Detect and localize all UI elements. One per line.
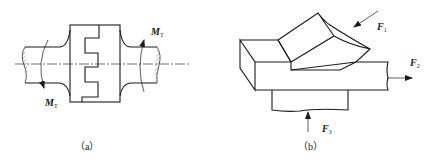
left-shaft [25, 30, 70, 96]
force-label-1: F1 [376, 21, 387, 33]
right-shaft [120, 30, 157, 96]
torque-label-bottom: MT [44, 97, 58, 109]
figure-canvas: MT MT （a） F1 F2 F3 （b） [0, 0, 438, 163]
force-label-2: F2 [409, 57, 420, 69]
force-arrow-1 [354, 11, 378, 27]
force-label-3: F3 [321, 123, 332, 135]
support-plate [272, 90, 348, 111]
jaw-interlock [82, 25, 99, 102]
torque-arrow-right [140, 40, 144, 92]
caption-a: （a） [75, 141, 99, 152]
coupling-body [70, 25, 120, 102]
figure-b-block: F1 F2 F3 （b） [240, 11, 420, 152]
figure-a-coupling: MT MT （a） [15, 25, 190, 152]
inclined-block [278, 13, 370, 70]
caption-b: （b） [298, 141, 323, 152]
torque-label-top: MT [150, 26, 164, 38]
block-end-face [240, 40, 255, 90]
